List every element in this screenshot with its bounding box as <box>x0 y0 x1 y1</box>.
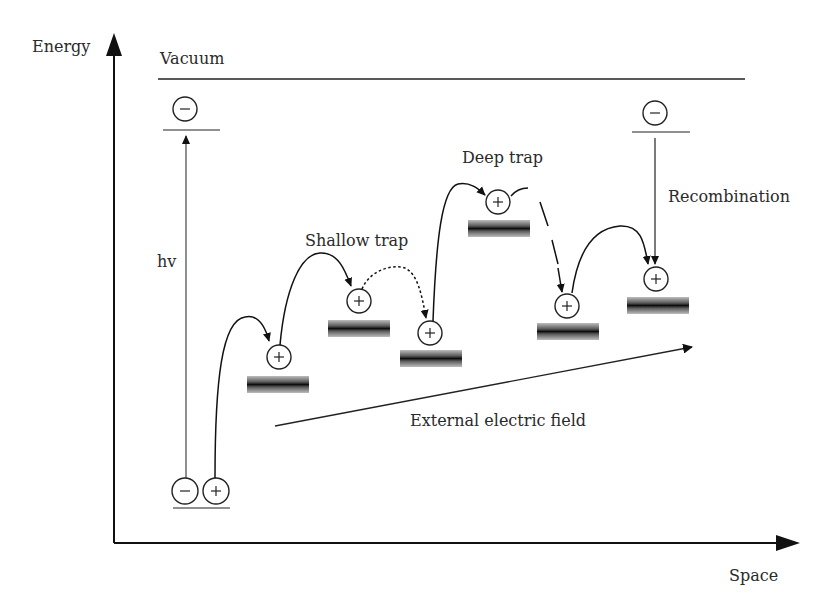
trap-3 <box>400 321 462 367</box>
trap-1 <box>247 345 309 393</box>
shallow-trap-label: Shallow trap <box>305 231 408 250</box>
energy-axis <box>106 33 122 543</box>
electron-hole-pair <box>172 478 230 508</box>
trap-5 <box>537 294 599 340</box>
hop-arrow-3-dotted <box>362 267 426 318</box>
space-axis-label: Space <box>729 566 778 585</box>
trap-2-shallow <box>328 289 390 337</box>
trap-bar <box>468 220 530 237</box>
space-axis <box>114 535 800 551</box>
excited-electron-right <box>632 101 690 132</box>
excited-electron-left <box>163 97 220 130</box>
space-axis-arrowhead-icon <box>776 535 800 551</box>
energy-axis-label: Energy <box>32 37 90 56</box>
hop-arrow-4 <box>433 184 485 321</box>
trap-bar <box>328 320 390 337</box>
trap-bar <box>400 350 462 367</box>
trap-4-deep <box>468 190 530 237</box>
trap-6-recombination <box>627 267 689 314</box>
photon-label: hv <box>157 252 176 271</box>
energy-axis-arrowhead-icon <box>106 33 122 56</box>
energy-diagram: Energy Space Vacuum hv <box>0 0 831 609</box>
electric-field-label: External electric field <box>410 411 586 430</box>
hop-arrow-1 <box>215 317 269 478</box>
trap-bar <box>627 297 689 314</box>
trap-bar <box>537 323 599 340</box>
deep-trap-label: Deep trap <box>462 148 543 167</box>
recombination-label: Recombination <box>668 187 790 206</box>
trap-bar <box>247 376 309 393</box>
hop-arrow-6 <box>572 226 648 293</box>
vacuum-label: Vacuum <box>159 49 224 68</box>
